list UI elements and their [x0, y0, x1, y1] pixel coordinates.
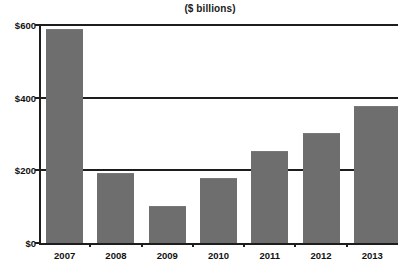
x-tick-mark	[346, 243, 348, 247]
x-tick-mark	[243, 243, 245, 247]
gridline	[39, 169, 398, 171]
x-tick-label: 2011	[259, 250, 280, 261]
gridline	[39, 97, 398, 99]
bar	[251, 151, 288, 243]
x-tick-mark	[141, 243, 143, 247]
y-tick-label: $200	[2, 165, 36, 176]
x-tick-label: 2012	[310, 250, 331, 261]
x-tick-label: 2010	[208, 250, 229, 261]
y-tick-label: $600	[2, 20, 36, 31]
x-tick-label: 2008	[105, 250, 126, 261]
x-tick-label: 2007	[54, 250, 75, 261]
x-axis-line	[39, 243, 398, 245]
y-tick-label: $0	[2, 238, 36, 249]
bar	[200, 178, 237, 243]
bar	[354, 106, 398, 243]
x-tick-label: 2013	[362, 250, 383, 261]
x-axis: 2007200820092010201120122013	[39, 247, 398, 267]
chart-title: ($ billions)	[0, 3, 420, 14]
x-tick-mark	[89, 243, 91, 247]
bar	[46, 29, 83, 243]
gridline	[39, 24, 398, 26]
bar	[303, 133, 340, 243]
bar-chart-figure: ($ billions) $0$200$400$600 200720082009…	[0, 0, 420, 270]
x-tick-mark	[192, 243, 194, 247]
plot-area	[39, 25, 398, 243]
bar	[97, 173, 134, 243]
y-tick-label: $400	[2, 92, 36, 103]
bar	[149, 206, 186, 243]
x-tick-mark	[294, 243, 296, 247]
y-axis: $0$200$400$600	[0, 0, 36, 270]
x-tick-label: 2009	[157, 250, 178, 261]
